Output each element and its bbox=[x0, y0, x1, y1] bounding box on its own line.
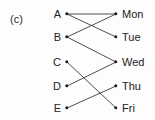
node-label-c: C bbox=[53, 57, 61, 68]
node-label-wed: Wed bbox=[122, 57, 144, 68]
node-label-e: E bbox=[54, 103, 61, 114]
node-label-tue: Tue bbox=[122, 32, 141, 43]
edge-e-to-thu bbox=[67, 86, 116, 108]
edge-d-to-wed bbox=[67, 62, 116, 86]
node-label-b: B bbox=[54, 32, 61, 43]
edge-group bbox=[67, 14, 116, 108]
mapping-diagram-figure: (c) ABCDE MonTueWedThuFri bbox=[0, 0, 155, 120]
node-label-a: A bbox=[54, 9, 61, 20]
node-label-d: D bbox=[53, 81, 61, 92]
node-label-mon: Mon bbox=[122, 9, 143, 20]
node-label-thu: Thu bbox=[122, 81, 141, 92]
edge-c-to-fri bbox=[67, 62, 116, 108]
node-label-fri: Fri bbox=[122, 103, 135, 114]
edge-b-to-wed bbox=[67, 37, 116, 62]
